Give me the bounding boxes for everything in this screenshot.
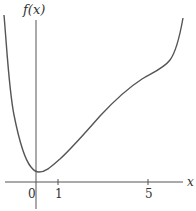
x-tick-label-1: 1 — [55, 187, 63, 201]
x-tick-label-0: 0 — [28, 187, 36, 201]
x-tick-label-5: 5 — [145, 187, 153, 201]
y-axis-label: f(x) — [22, 2, 45, 17]
function-curve — [4, 15, 183, 172]
x-axis-label: x — [187, 175, 194, 189]
function-graph: f(x) x 0 1 5 — [0, 0, 196, 211]
